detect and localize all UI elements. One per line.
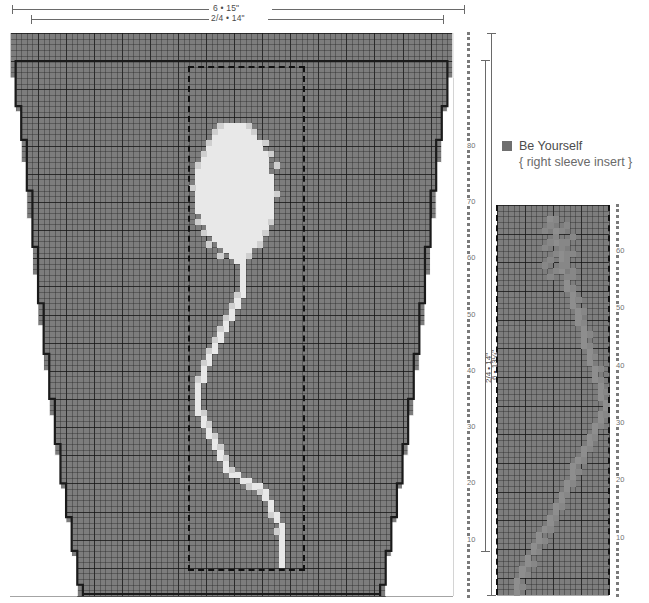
legend-title-row: Be Yourself [502,138,648,154]
dimension-cap-right [443,15,444,24]
axis-tick [616,284,619,287]
motif-cell [547,526,553,532]
axis-tick [616,318,619,321]
axis-tick [467,48,470,51]
axis-tick [616,312,619,315]
axis-tick [467,499,470,502]
axis-tick [467,330,470,333]
axis-tick [616,330,619,333]
motif-cell [559,239,565,245]
motif-cell [581,457,587,463]
axis-tick [616,496,619,499]
axis-tick [467,442,470,445]
motif-cell [581,320,587,326]
legend-subtitle: { right sleeve insert } [519,154,648,170]
axis-tick [616,267,619,270]
sleeve-axis-tick-label: 10 [615,534,625,542]
right-sleeve-insert-chart[interactable] [497,205,609,595]
grid-hline [497,555,609,556]
sleeve-axis-tick-label: 20 [615,476,625,484]
axis-tick [467,409,470,412]
motif-cell [553,515,559,521]
motif-cell [592,434,598,440]
motif-cell [553,268,559,274]
axis-tick [467,116,470,119]
axis-tick [467,127,470,130]
front-body-chart[interactable] [10,33,453,596]
axis-tick [467,65,470,68]
axis-tick [616,261,619,264]
axis-tick [616,272,619,275]
dimension-row-inner: 2/4 • 14" [0,12,480,26]
axis-tick [467,516,470,519]
legend-swatch-icon [502,141,512,151]
dimension-bar-right [272,9,465,10]
motif-cell [547,222,553,228]
motif-cell [547,239,553,245]
axis-tick [467,122,470,125]
axis-tick [616,559,619,562]
grid-hline [497,417,609,418]
axis-tick [467,583,470,586]
motif-cell [542,245,548,251]
motif-cell [531,561,537,567]
axis-tick [467,544,470,547]
motif-cell [564,222,570,228]
grid-hline [497,314,609,315]
axis-tick [616,594,619,597]
axis-tick [616,255,619,258]
legend: Be Yourself { right sleeve insert } [502,138,648,170]
axis-tick [467,336,470,339]
axis-tick [467,105,470,108]
grid-hline [497,308,609,309]
axis-tick [616,525,619,528]
axis-tick [467,381,470,384]
motif-cell [581,308,587,314]
axis-tick [616,553,619,556]
axis-tick [467,319,470,322]
motif-cell [587,446,593,452]
axis-tick [467,431,470,434]
body-row-axis: 8070605040302010 [463,33,481,596]
axis-tick [467,178,470,181]
axis-tick [616,490,619,493]
grid-hline [497,285,609,286]
axis-tick [467,212,470,215]
axis-tick [616,295,619,298]
axis-tick [616,439,619,442]
axis-tick [467,161,470,164]
axis-tick [467,43,470,46]
axis-tick [467,93,470,96]
grid-hline [497,486,609,487]
axis-tick [616,290,619,293]
motif-cell [559,228,565,234]
grid-hline [497,211,609,212]
motif-cell [564,492,570,498]
grid-hline [497,498,609,499]
motif-cell [575,297,581,303]
grid-hline [497,543,609,544]
grid-hline [497,475,609,476]
axis-tick [467,32,470,35]
axis-tick [467,167,470,170]
motif-cell [570,480,576,486]
axis-tick [616,571,619,574]
axis-tick [467,82,470,85]
axis-tick [467,572,470,575]
axis-tick [616,215,619,218]
motif-cell [598,377,604,383]
axis-tick [467,302,470,305]
axis-tick [467,521,470,524]
axis-tick [467,471,470,474]
sleeve-axis-tick-label: 50 [615,304,625,312]
axis-tick [616,582,619,585]
axis-tick [467,262,470,265]
axis-tick [616,341,619,344]
axis-tick [616,347,619,350]
axis-tick [467,510,470,513]
axis-tick [467,37,470,40]
axis-tick [467,352,470,355]
axis-tick [467,268,470,271]
axis-tick [467,397,470,400]
axis-tick [467,229,470,232]
